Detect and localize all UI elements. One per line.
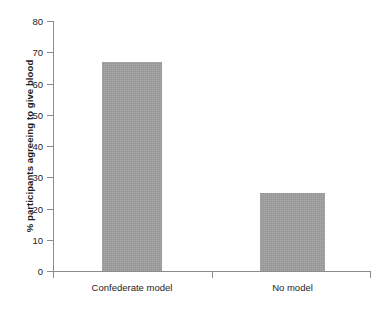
y-axis-tick bbox=[47, 146, 53, 147]
y-axis-tick-label: 40 bbox=[0, 141, 43, 152]
y-axis-tick bbox=[47, 115, 53, 116]
y-axis-tick-label: 0 bbox=[0, 266, 43, 277]
y-axis-tick-label: 30 bbox=[0, 172, 43, 183]
y-axis-tick-label: 20 bbox=[0, 203, 43, 214]
y-axis-tick bbox=[47, 240, 53, 241]
y-axis-tick-label: 10 bbox=[0, 234, 43, 245]
x-axis-tick bbox=[370, 272, 371, 278]
y-axis-tick-label: 60 bbox=[0, 78, 43, 89]
x-axis-tick bbox=[212, 272, 213, 278]
y-axis-tick bbox=[47, 21, 53, 22]
y-axis-tick bbox=[47, 84, 53, 85]
y-axis-tick bbox=[47, 209, 53, 210]
y-axis-tick bbox=[47, 177, 53, 178]
y-axis-tick-label: 70 bbox=[0, 47, 43, 58]
x-axis-tick bbox=[53, 272, 54, 278]
y-axis-tick-label: 50 bbox=[0, 109, 43, 120]
x-axis-category-label: Confederate model bbox=[92, 282, 173, 293]
bar bbox=[260, 193, 325, 271]
y-axis-line bbox=[53, 21, 54, 272]
x-axis-category-label: No model bbox=[272, 282, 313, 293]
y-axis-tick bbox=[47, 52, 53, 53]
bar bbox=[102, 62, 162, 271]
y-axis-tick-label: 80 bbox=[0, 16, 43, 27]
bar-chart-figure: % participants agreeing to give blood 01… bbox=[0, 0, 381, 310]
